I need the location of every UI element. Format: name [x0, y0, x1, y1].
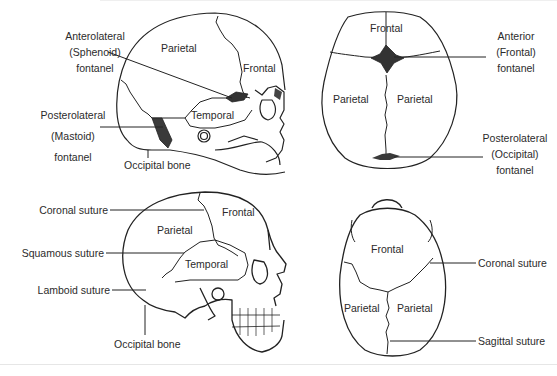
bone-label-frontal: Frontal [371, 243, 404, 255]
label-line: (Mastoid) [30, 126, 116, 147]
label-line: Lamboid suture [0, 282, 110, 298]
squamous-suture-label: Squamous suture [0, 245, 104, 261]
bone-label-frontal: Frontal [243, 62, 276, 74]
anterior-fontanel [371, 45, 404, 73]
label-line: Posterolateral [30, 105, 116, 126]
occipital-bone-label: Occipital bone [114, 336, 181, 352]
adult-superior-panel: Frontal Parietal Parietal Coronal suture… [300, 190, 557, 366]
sagittal-suture-label: Sagittal suture [478, 333, 545, 349]
posterolateral-fontanel [152, 118, 172, 148]
bone-label-temporal: Temporal [185, 258, 228, 270]
posterolateral-mastoid-fontanel-label: Posterolateral (Mastoid) fontanel [30, 105, 116, 168]
label-line: Occipital bone [114, 336, 181, 352]
adult-lateral-panel: Frontal Parietal Temporal Coronal suture… [0, 190, 300, 366]
bone-label-parietal-right: Parietal [397, 302, 433, 314]
label-line: Sagittal suture [478, 333, 545, 349]
bone-label-parietal-left: Parietal [333, 93, 369, 105]
bone-label-temporal: Temporal [191, 109, 234, 121]
label-line: Anterolateral [50, 28, 140, 44]
bone-label-parietal: Parietal [157, 224, 193, 236]
label-line: fontanel [30, 147, 116, 168]
bone-label-parietal-right: Parietal [397, 93, 433, 105]
infant-superior-panel: Frontal Parietal Parietal Anterior (Fron… [290, 0, 557, 190]
label-line: Anterior [480, 28, 552, 44]
coronal-suture-label: Coronal suture [478, 255, 547, 271]
label-line: (Frontal) [480, 44, 552, 60]
posterolateral-occipital-fontanel-label: Posterolateral (Occipital) fontanel [470, 130, 557, 178]
coronal-suture-label: Coronal suture [0, 202, 108, 218]
label-line: Coronal suture [0, 202, 108, 218]
label-line: Coronal suture [478, 255, 547, 271]
bottom-border [0, 364, 557, 365]
label-line: fontanel [470, 162, 557, 178]
bone-label-parietal-left: Parietal [344, 302, 380, 314]
anterolateral-fontanel-label: Anterolateral (Sphenoid) fontanel [50, 28, 140, 76]
infant-lateral-panel: Parietal Frontal Temporal Anterolateral … [0, 0, 290, 190]
bone-label-parietal: Parietal [161, 42, 197, 54]
anterior-fontanel-label: Anterior (Frontal) fontanel [480, 28, 552, 76]
label-line: Squamous suture [0, 245, 104, 261]
label-line: fontanel [480, 60, 552, 76]
lamboid-suture-label: Lamboid suture [0, 282, 110, 298]
label-line: (Sphenoid) [50, 44, 140, 60]
label-line: (Occipital) [470, 146, 557, 162]
bone-label-frontal: Frontal [370, 22, 403, 34]
bone-label-frontal: Frontal [222, 206, 255, 218]
label-line: Occipital bone [124, 157, 191, 173]
label-line: fontanel [50, 60, 140, 76]
label-line: Posterolateral [470, 130, 557, 146]
occipital-bone-label: Occipital bone [124, 157, 191, 173]
